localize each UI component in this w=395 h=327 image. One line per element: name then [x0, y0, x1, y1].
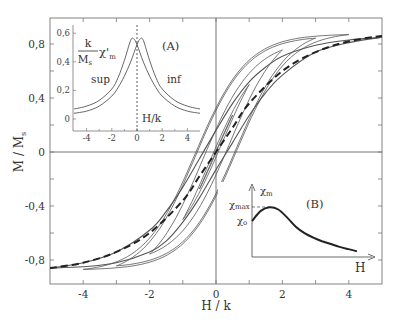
- inset-a-x-tick: 2: [159, 133, 164, 143]
- y-axis-label: M / Ms: [12, 132, 28, 172]
- x-axis-label: H / k: [201, 299, 231, 313]
- inset-a-den: M: [78, 53, 89, 65]
- x-tick-label: 2: [279, 288, 286, 300]
- inset-a-tag: (A): [162, 39, 179, 53]
- inset-a-inf-label: inf: [167, 73, 182, 85]
- y-tick-label: 0,4: [28, 92, 45, 104]
- inset-a-y-tick: 0,6: [56, 28, 70, 38]
- y-tick-label: -0,4: [25, 200, 46, 212]
- x-tick-label: -2: [144, 288, 154, 300]
- inset-a: -4-202400,20,40,6 (A) k Ms χ'm sup inf H…: [56, 25, 200, 143]
- inset-b-tag: (B): [306, 197, 323, 211]
- inset-a-x-tick: -2: [108, 133, 116, 143]
- inset-a-xlabel: H/k: [142, 112, 162, 124]
- hysteresis-chart: -4-2024-0,8-0,400,40,8 M / Ms H / k -4-2…: [0, 0, 395, 327]
- inset-a-y-tick: 0,2: [56, 85, 70, 95]
- x-tick-label: 4: [345, 288, 352, 300]
- inset-a-chi: χ': [99, 45, 109, 59]
- y-tick-label: 0: [38, 146, 45, 158]
- inset-a-x-tick: 4: [185, 133, 190, 143]
- inset-a-x-tick: -4: [82, 133, 90, 143]
- inset-a-y-tick: 0: [65, 114, 70, 124]
- inset-a-y-tick: 0,4: [56, 57, 70, 67]
- inset-b-xlabel: H: [355, 261, 365, 275]
- y-tick-label: 0,8: [28, 38, 45, 50]
- y-tick-label: -0,8: [25, 254, 45, 266]
- inset-b: χm χmax χo (B) H: [218, 182, 378, 277]
- inset-a-num: k: [85, 37, 92, 50]
- svg-text:M / Ms: M / Ms: [12, 132, 28, 172]
- inset-a-x-tick: 0: [134, 133, 139, 143]
- x-tick-label: -4: [78, 288, 89, 300]
- inset-a-sup-label: sup: [91, 73, 110, 85]
